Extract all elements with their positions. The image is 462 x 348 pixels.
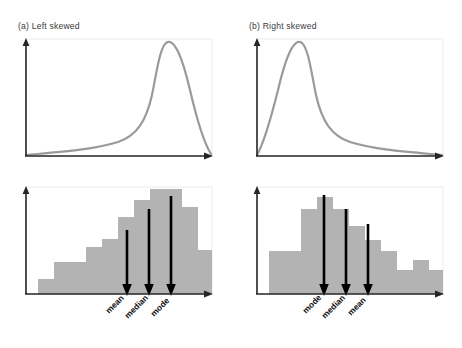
bar (150, 189, 166, 294)
bar (102, 239, 118, 294)
marker-label-mean: mean (345, 295, 368, 318)
histogram-left-skewed: mean median mode (0, 174, 231, 348)
bar (349, 226, 365, 294)
marker-label-median: median (319, 293, 347, 321)
bar (397, 270, 413, 294)
panel-top-left: (a) Left skewed (0, 0, 231, 174)
bar (413, 260, 429, 294)
bar (70, 262, 86, 294)
bar (166, 189, 182, 294)
density-curve-left-skewed (0, 0, 231, 174)
bar (54, 262, 70, 294)
bar (134, 200, 150, 294)
bar (381, 251, 397, 294)
marker-label-median: median (122, 293, 150, 321)
bar (182, 207, 198, 294)
panel-bottom-left: mean median mode (0, 174, 231, 348)
marker-label-mode: mode (148, 295, 171, 318)
panel-bottom-right: mode median mean (231, 174, 462, 348)
panel-top-right: (b) Right skewed (231, 0, 462, 174)
figure-canvas: (a) Left skewed (b) Right skewed (0, 0, 462, 348)
bar (269, 251, 285, 294)
bar (429, 270, 443, 294)
bar (198, 250, 212, 294)
density-curve-right-skewed (231, 0, 462, 174)
bar (285, 251, 301, 294)
bar (38, 279, 54, 294)
histogram-right-skewed: mode median mean (231, 174, 462, 348)
plot-frame (26, 39, 212, 156)
bar (86, 247, 102, 294)
bar (301, 209, 317, 294)
plot-frame (257, 39, 443, 156)
